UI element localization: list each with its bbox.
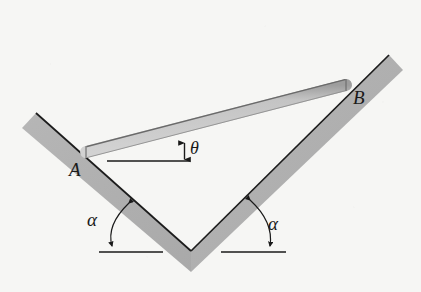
groove-right-face bbox=[191, 55, 403, 272]
figure-canvas: A B θ α α bbox=[0, 0, 421, 292]
label-angle-alpha-left: α bbox=[87, 210, 97, 229]
label-point-b: B bbox=[353, 88, 365, 107]
groove-right-inner-edge bbox=[191, 55, 389, 251]
label-angle-alpha-right: α bbox=[268, 214, 278, 233]
label-point-a: A bbox=[69, 160, 81, 179]
label-angle-theta: θ bbox=[190, 139, 199, 157]
mechanics-diagram-svg bbox=[0, 0, 421, 292]
